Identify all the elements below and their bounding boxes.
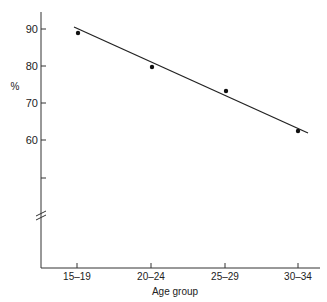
trend-line	[74, 27, 308, 133]
x-tick-labels: 15–19 20–24 25–29 30–34	[63, 271, 312, 282]
y-tick-label: 90	[26, 23, 38, 35]
data-point	[76, 31, 80, 35]
y-tick-labels: 90 80 70 60	[26, 23, 38, 146]
x-tick-label: 25–29	[211, 271, 239, 282]
data-points	[76, 31, 300, 133]
data-point	[296, 129, 300, 133]
x-ticks	[77, 263, 298, 268]
y-tick-label: 60	[26, 134, 38, 146]
data-point	[150, 65, 154, 69]
x-tick-label: 30–34	[284, 271, 312, 282]
x-tick-label: 20–24	[137, 271, 165, 282]
x-axis-label: Age group	[152, 286, 199, 297]
y-ticks	[41, 29, 46, 178]
y-axis-label: %	[11, 81, 20, 92]
data-point	[224, 89, 228, 93]
chart-container: 90 80 70 60 % 15–19 20–24 25–29 30–34 Ag…	[0, 0, 327, 302]
scatter-chart: 90 80 70 60 % 15–19 20–24 25–29 30–34 Ag…	[0, 0, 327, 302]
y-tick-label: 70	[26, 97, 38, 109]
y-tick-label: 80	[26, 60, 38, 72]
x-tick-label: 15–19	[63, 271, 91, 282]
